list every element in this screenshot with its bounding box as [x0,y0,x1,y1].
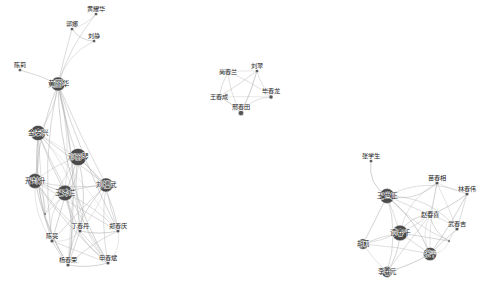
graph-node[interactable] [106,261,110,265]
graph-node-label: 毕春龙 [262,87,280,95]
graph-node-label: 谭春千 [390,228,411,237]
graph-background [0,0,489,292]
graph-node-label: 苗春相 [428,174,446,182]
graph-node-label: 王春成 [210,93,228,101]
graph-node-label: 杨春荣 [59,256,77,264]
graph-node-label: 开封升 [25,176,46,185]
graph-node[interactable] [18,68,21,71]
graph-node-label: 李春元 [378,267,397,276]
graph-node-label: 赵春喜 [421,210,440,219]
graph-node[interactable] [94,12,97,15]
graph-node-label: 郭娜 [66,20,78,28]
graph-node[interactable] [435,181,439,185]
graph-node-label: 金泰兴 [28,128,49,137]
graph-node[interactable] [465,192,469,196]
graph-node-label: 郑春庆 [109,222,127,230]
graph-node[interactable] [66,263,70,267]
graph-node[interactable] [50,239,54,243]
graph-node-label: 刘福武 [96,180,117,189]
graph-node-label: 丁春丹 [71,222,89,230]
graph-node-label: 张学生 [362,152,380,160]
graph-node[interactable] [78,229,82,233]
graph-node-label: 武春吉 [448,220,466,228]
graph-node-label: 陈莉 [14,61,26,69]
graph-node[interactable] [255,69,258,72]
graph-node-label: 刘翠 [251,62,263,69]
graph-node-label: 王世正 [377,191,398,200]
graph-node[interactable] [116,229,120,233]
graph-node[interactable] [455,227,459,231]
graph-node-label: 张平 [424,249,437,258]
graph-node-label: 尚春兰 [219,68,237,76]
network-graph: 黄耀华郭娜刘静陈莉黄丽华金泰兴邓丽琴开封升刘福武王秀兰丁春丹郑春庆陈亮杨春荣申春… [0,0,489,292]
graph-node-label: 林春伟 [458,185,476,193]
graph-node-label: 黄丽华 [48,79,69,88]
graph-node-label: 刘静 [88,32,100,39]
graph-node[interactable] [70,27,73,30]
graph-node-label: 胡莉 [357,239,370,248]
graph-node-label: 邢春田 [232,103,250,111]
graph-node[interactable] [92,39,95,42]
graph-node[interactable] [269,95,273,99]
graph-node[interactable] [448,240,450,242]
graph-node[interactable] [44,213,46,215]
graph-node-label: 王秀兰 [55,188,76,197]
graph-node-label: 陈亮 [46,232,58,240]
graph-node-label: 黄耀华 [87,5,105,13]
graph-node[interactable] [238,110,243,115]
graph-node-label: 申春斌 [99,254,118,262]
graph-node-label: 邓丽琴 [68,153,89,161]
graph-node[interactable] [369,159,372,162]
